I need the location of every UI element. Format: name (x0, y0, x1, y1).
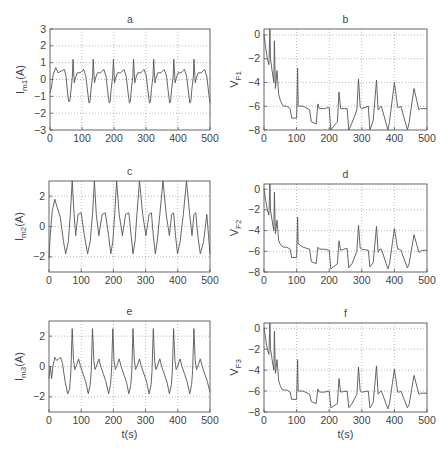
subplot-title: b (343, 13, 349, 25)
x-tick-label: 400 (169, 132, 187, 144)
subplot-title: a (127, 13, 133, 25)
x-tick-label: 200 (105, 132, 123, 144)
subplot-f: 0100200300400500−8−6−4−20fVF3t(s) (228, 307, 436, 440)
y-tick-label: 2 (39, 190, 45, 202)
x-tick-label: 500 (418, 414, 436, 426)
y-tick-label: −8 (248, 266, 260, 278)
y-axis-label: VF2 (228, 219, 243, 236)
x-tick-label: 200 (105, 274, 123, 286)
subplot-b: 0100200300400500−8−6−4−20bVF1 (228, 13, 436, 144)
x-tick-label: 400 (386, 414, 404, 426)
x-tick-label: 500 (201, 132, 219, 144)
y-tick-label: 0 (254, 28, 260, 40)
y-tick-label: −2 (248, 203, 260, 215)
x-tick-label: 200 (320, 274, 338, 286)
x-axis-label: t(s) (122, 428, 138, 440)
y-tick-label: 0 (39, 220, 45, 232)
y-tick-label: 0 (39, 360, 45, 372)
x-tick-label: 300 (137, 414, 155, 426)
subplot-title: f (344, 307, 347, 319)
x-tick-label: 400 (386, 274, 404, 286)
x-tick-label: 500 (418, 274, 436, 286)
x-tick-label: 0 (46, 274, 52, 286)
figure-canvas: 0100200300400500−3−2−10123aIm1(A)0100200… (0, 0, 448, 451)
subplot-title: c (127, 165, 132, 177)
x-tick-label: 200 (105, 414, 123, 426)
subplot-e: 0100200300400500−202eIm3(A)t(s) (13, 305, 219, 440)
x-tick-label: 300 (353, 274, 371, 286)
y-tick-label: 0 (40, 73, 46, 85)
x-tick-label: 500 (201, 414, 219, 426)
y-tick-label: 2 (40, 39, 46, 51)
y-tick-label: −6 (248, 245, 260, 257)
x-tick-label: 0 (261, 132, 267, 144)
y-tick-label: 2 (39, 330, 45, 342)
x-tick-label: 100 (288, 132, 306, 144)
y-tick-label: −6 (248, 100, 260, 112)
y-tick-label: 1 (40, 56, 46, 68)
x-tick-label: 500 (201, 274, 219, 286)
y-tick-label: −3 (34, 124, 46, 136)
subplot-c: 0100200300400500−202cIm2(A) (13, 165, 219, 286)
subplot-title: d (343, 168, 349, 180)
y-tick-label: −8 (248, 124, 260, 136)
x-tick-label: 300 (353, 132, 371, 144)
y-tick-label: −4 (248, 364, 260, 376)
subplot-d: 0100200300400500−8−6−4−20dVF2 (228, 168, 436, 286)
y-tick-label: 0 (254, 322, 260, 334)
x-tick-label: 300 (137, 274, 155, 286)
x-tick-label: 100 (72, 274, 90, 286)
y-tick-label: −4 (248, 76, 260, 88)
x-tick-label: 0 (46, 414, 52, 426)
x-tick-label: 0 (261, 414, 267, 426)
x-tick-label: 0 (261, 274, 267, 286)
y-tick-label: −2 (33, 250, 45, 262)
y-axis-label: Im3(A) (13, 352, 28, 381)
subplot-a: 0100200300400500−3−2−10123aIm1(A) (14, 13, 219, 144)
y-axis-label: VF3 (228, 359, 243, 376)
y-tick-label: −4 (248, 224, 260, 236)
x-tick-label: 300 (137, 132, 155, 144)
x-tick-label: 400 (169, 274, 187, 286)
y-tick-label: −1 (34, 90, 46, 102)
x-tick-label: 300 (353, 414, 371, 426)
y-axis-label: Im2(A) (13, 212, 28, 241)
y-tick-label: −2 (33, 390, 45, 402)
subplot-title: e (127, 305, 133, 317)
y-axis-label: Im1(A) (14, 65, 29, 94)
y-tick-label: −8 (248, 406, 260, 418)
x-tick-label: 100 (288, 274, 306, 286)
x-tick-label: 500 (418, 132, 436, 144)
y-axis-label: VF1 (228, 71, 243, 88)
y-tick-label: −6 (248, 385, 260, 397)
x-axis-label: t(s) (338, 428, 354, 440)
x-tick-label: 200 (320, 414, 338, 426)
x-tick-label: 200 (320, 132, 338, 144)
y-tick-label: −2 (248, 52, 260, 64)
x-tick-label: 100 (288, 414, 306, 426)
x-tick-label: 400 (169, 414, 187, 426)
x-tick-label: 400 (386, 132, 404, 144)
y-tick-label: 3 (40, 23, 46, 35)
y-tick-label: 0 (254, 183, 260, 195)
x-tick-label: 0 (47, 132, 53, 144)
y-tick-label: −2 (34, 107, 46, 119)
x-tick-label: 100 (72, 414, 90, 426)
y-tick-label: −2 (248, 343, 260, 355)
x-tick-label: 100 (73, 132, 91, 144)
